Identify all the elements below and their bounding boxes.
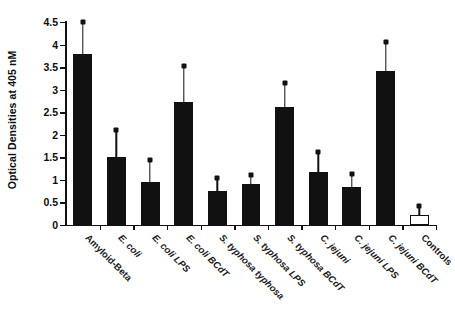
x-axis-tick (436, 225, 437, 230)
y-axis-tick-label: 4.5 (43, 16, 58, 28)
y-axis-tick-label: 0 (52, 219, 58, 231)
bar (73, 54, 92, 225)
error-bar-cap (383, 40, 388, 45)
y-axis-tick-label: 1 (52, 174, 58, 186)
bar (376, 71, 395, 225)
y-axis-tick-label: 2 (52, 129, 58, 141)
x-axis-label: E. coli (117, 232, 145, 260)
x-axis-tick (133, 225, 134, 230)
error-bar-cap (316, 149, 321, 154)
x-axis-tick (301, 225, 302, 230)
plot-area: 00.511.522.533.544.5 (66, 22, 436, 225)
error-bar-cap (80, 20, 85, 25)
y-axis-title: Optical Densities at 405 nM (0, 0, 24, 240)
x-axis-tick (268, 225, 269, 230)
x-axis-label: S. typhosa typhosa (218, 232, 287, 301)
bar (309, 172, 328, 225)
error-bar (82, 22, 83, 54)
bar (275, 107, 294, 225)
x-axis-label: C. jejuni (318, 232, 352, 266)
x-axis-tick (167, 225, 168, 230)
error-bar (116, 130, 117, 157)
y-axis-tick (60, 112, 65, 113)
error-bar (149, 160, 150, 183)
bar (174, 102, 193, 225)
bar (141, 182, 160, 225)
bar (342, 187, 361, 225)
error-bar (183, 66, 184, 102)
error-bar-cap (181, 64, 186, 69)
error-bar-cap (215, 175, 220, 180)
y-axis-tick (60, 157, 65, 158)
y-axis-tick (60, 225, 65, 226)
error-bar (284, 83, 285, 107)
y-axis-tick-label: 3.5 (43, 61, 58, 73)
x-axis-tick (201, 225, 202, 230)
x-axis-tick (234, 225, 235, 230)
y-axis-tick (60, 180, 65, 181)
x-axis-label: S. typhosa BCdT (285, 232, 347, 294)
bar (410, 215, 429, 225)
y-axis-tick-label: 4 (52, 39, 58, 51)
y-axis-tick-label: 3 (52, 84, 58, 96)
error-bar-cap (417, 204, 422, 209)
error-bar (318, 152, 319, 172)
y-axis-tick (60, 67, 65, 68)
bar (107, 157, 126, 225)
y-axis-tick (60, 90, 65, 91)
y-axis-title-text: Optical Densities at 405 nM (6, 51, 18, 190)
x-axis-tick (369, 225, 370, 230)
y-axis-tick-label: 0.5 (43, 196, 58, 208)
y-axis-tick (60, 135, 65, 136)
bar (208, 191, 227, 225)
y-axis-tick (60, 202, 65, 203)
x-axis-tick (100, 225, 101, 230)
y-axis-tick (60, 45, 65, 46)
x-axis-tick (402, 225, 403, 230)
bar (242, 184, 261, 225)
y-axis-tick-label: 2.5 (43, 106, 58, 118)
y-axis-tick-label: 1.5 (43, 151, 58, 163)
error-bar-cap (249, 173, 254, 178)
error-bar-cap (148, 157, 153, 162)
error-bar-cap (349, 172, 354, 177)
x-axis-tick (335, 225, 336, 230)
y-axis-tick (60, 22, 65, 23)
error-bar-cap (282, 80, 287, 85)
error-bar-cap (114, 128, 119, 133)
error-bar (385, 42, 386, 70)
